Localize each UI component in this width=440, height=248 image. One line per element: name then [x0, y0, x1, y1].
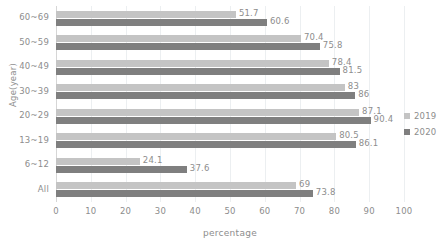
- bar-value-label: 86.1: [359, 138, 379, 148]
- bar-row: 60~6951.760.6: [56, 6, 404, 31]
- x-tick-label: 60: [259, 206, 270, 216]
- bar-row: All6973.8: [56, 178, 404, 203]
- bar-value-label: 69: [299, 179, 310, 189]
- legend-swatch-icon: [404, 113, 410, 119]
- bar-2019[interactable]: [56, 158, 140, 165]
- bar-2019[interactable]: [56, 182, 296, 189]
- bar-value-label: 80.5: [339, 130, 359, 140]
- bar-value-label: 70.4: [304, 32, 324, 42]
- bar-2020[interactable]: [56, 43, 320, 50]
- category-label: 50~59: [19, 37, 49, 47]
- category-label: 30~39: [19, 86, 49, 96]
- bar-value-label: 81.5: [343, 65, 363, 75]
- bar-row: 13~1980.586.1: [56, 129, 404, 154]
- legend-item[interactable]: 2019: [404, 111, 436, 121]
- bar-2020[interactable]: [56, 92, 355, 99]
- x-tick-label: 80: [329, 206, 340, 216]
- plot-area: 60~6951.760.650~5970.475.840~4978.481.53…: [56, 6, 404, 202]
- bar-value-label: 75.8: [323, 40, 343, 50]
- bar-2020[interactable]: [56, 141, 356, 148]
- x-axis-title: percentage: [55, 228, 405, 238]
- bar-2019[interactable]: [56, 133, 336, 140]
- x-tick-label: 50: [224, 206, 235, 216]
- bar-value-label: 51.7: [239, 8, 259, 18]
- bar-2020[interactable]: [56, 68, 340, 75]
- bar-value-label: 60.6: [270, 16, 290, 26]
- bar-2020[interactable]: [56, 190, 313, 197]
- legend-label: 2020: [414, 127, 436, 137]
- y-axis-title: Age(year): [8, 50, 18, 120]
- bar-2019[interactable]: [56, 35, 301, 42]
- category-label: 60~69: [19, 12, 49, 22]
- bar-2019[interactable]: [56, 60, 329, 67]
- gridline: [404, 6, 405, 202]
- legend-swatch-icon: [404, 129, 410, 135]
- category-label: 20~29: [19, 110, 49, 120]
- x-tick-label: 90: [364, 206, 375, 216]
- x-tick-label: 100: [396, 206, 413, 216]
- x-tick-label: 30: [155, 206, 166, 216]
- bar-row: 20~2987.190.4: [56, 104, 404, 129]
- x-tick-label: 70: [294, 206, 305, 216]
- x-tick-label: 0: [53, 206, 59, 216]
- category-label: 6~12: [25, 159, 49, 169]
- x-tick-label: 40: [190, 206, 201, 216]
- bar-value-label: 24.1: [143, 155, 163, 165]
- bar-row: 40~4978.481.5: [56, 55, 404, 80]
- bar-value-label: 37.6: [190, 163, 210, 173]
- bar-value-label: 73.8: [316, 187, 336, 197]
- bar-row: 30~398386: [56, 80, 404, 105]
- bar-row: 6~1224.137.6: [56, 153, 404, 178]
- bar-2019[interactable]: [56, 84, 345, 91]
- bar-2020[interactable]: [56, 19, 267, 26]
- x-tick-label: 10: [85, 206, 96, 216]
- bar-value-label: 86: [358, 89, 369, 99]
- bar-2020[interactable]: [56, 166, 187, 173]
- bar-row: 50~5970.475.8: [56, 31, 404, 56]
- bar-2019[interactable]: [56, 11, 236, 18]
- category-label: 40~49: [19, 61, 49, 71]
- bar-2020[interactable]: [56, 117, 371, 124]
- legend-label: 2019: [414, 111, 436, 121]
- legend-item[interactable]: 2020: [404, 127, 436, 137]
- bar-value-label: 90.4: [374, 114, 394, 124]
- category-label: All: [38, 184, 49, 194]
- legend: 20192020: [404, 111, 436, 143]
- bar-chart: Age(year) 60~6951.760.650~5970.475.840~4…: [0, 0, 440, 248]
- category-label: 13~19: [19, 135, 49, 145]
- bar-2019[interactable]: [56, 109, 359, 116]
- x-tick-label: 20: [120, 206, 131, 216]
